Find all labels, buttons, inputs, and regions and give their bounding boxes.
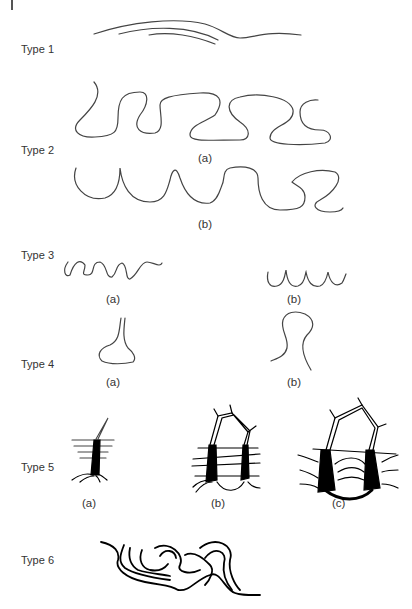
type-5a-drawing	[72, 418, 114, 482]
type-3b-drawing	[267, 270, 346, 286]
type-3a-drawing	[65, 262, 162, 279]
type-6-drawing	[101, 542, 260, 595]
type-2b-drawing	[75, 167, 343, 212]
type-2a-drawing	[76, 82, 331, 145]
type-5c-drawing	[298, 398, 398, 499]
type-4b-drawing	[271, 312, 313, 370]
type-5b-drawing	[192, 405, 260, 492]
type-4a-drawing	[99, 318, 134, 364]
figure-drawings	[0, 0, 412, 609]
type-1-drawing	[94, 21, 301, 44]
